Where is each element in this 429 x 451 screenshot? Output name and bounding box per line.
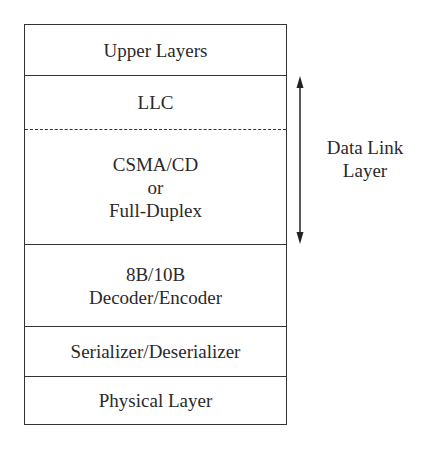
layer-llc: LLC bbox=[25, 75, 286, 129]
data-link-layer-label: Data Link Layer bbox=[305, 136, 425, 182]
layer-stack: Upper Layers LLC CSMA/CD or Full-Duplex … bbox=[24, 24, 287, 425]
layer-label: Decoder/Encoder bbox=[89, 286, 222, 309]
layer-serdes: Serializer/Deserializer bbox=[25, 326, 286, 376]
layer-label: Upper Layers bbox=[104, 39, 208, 62]
layer-label: Physical Layer bbox=[99, 389, 212, 412]
layer-label: Full-Duplex bbox=[109, 199, 202, 222]
layer-label: CSMA/CD bbox=[113, 153, 199, 176]
layer-encoder: 8B/10B Decoder/Encoder bbox=[25, 244, 286, 326]
bracket-label-line: Layer bbox=[305, 159, 425, 182]
layer-csma-cd: CSMA/CD or Full-Duplex bbox=[25, 129, 286, 244]
bracket-label-line: Data Link bbox=[305, 136, 425, 159]
layer-physical: Physical Layer bbox=[25, 376, 286, 424]
layer-label: Serializer/Deserializer bbox=[71, 340, 241, 363]
layer-label: 8B/10B bbox=[126, 263, 185, 286]
layer-label: LLC bbox=[138, 91, 174, 114]
layer-label: or bbox=[148, 176, 164, 199]
layer-upper-layers: Upper Layers bbox=[25, 25, 286, 75]
